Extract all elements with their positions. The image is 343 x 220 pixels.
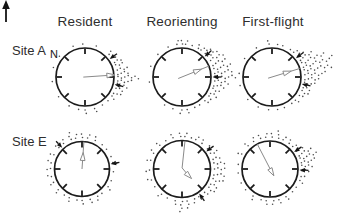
- panel-site-a-reorienting: [149, 40, 237, 114]
- column-label-first-flight: First-flight: [226, 14, 320, 29]
- panel-site-e-resident: [46, 132, 119, 205]
- reference-direction-arrow: [302, 83, 308, 87]
- reference-direction-arrow: [300, 168, 306, 172]
- figure-canvas: Resident Reorienting First-flight Site A…: [0, 0, 343, 220]
- orientation-diagrams: [0, 0, 343, 220]
- north-arrow-icon: [0, 0, 12, 24]
- panel-site-a-resident: [52, 43, 140, 114]
- column-label-reorienting: Reorienting: [136, 14, 228, 29]
- column-label-resident: Resident: [40, 14, 130, 29]
- panel-site-e-reorienting: [145, 132, 225, 212]
- row-label-site-e: Site E: [12, 134, 47, 149]
- reference-direction-arrow: [111, 161, 117, 165]
- panel-site-a-first-flight: [238, 40, 332, 111]
- reference-direction-arrow: [199, 194, 204, 200]
- reference-direction-arrow: [115, 84, 121, 88]
- row-label-site-a: Site A: [12, 43, 46, 58]
- panel-site-e-first-flight: [237, 130, 317, 205]
- north-label: N: [50, 48, 58, 60]
